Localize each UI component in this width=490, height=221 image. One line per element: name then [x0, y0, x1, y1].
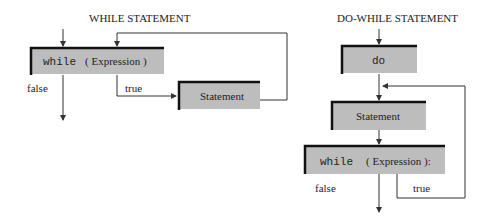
while-expression: ( Expression ) [85, 55, 147, 68]
while-keyword: while [43, 56, 76, 68]
do-box: do [342, 46, 417, 74]
while-statement-box: Statement [179, 82, 260, 110]
while-condition-box: while ( Expression ) [31, 48, 164, 75]
flowchart-canvas: WHILE STATEMENT while ( Expression ) fal… [0, 0, 490, 221]
false-label: false [27, 82, 48, 94]
while-title: WHILE STATEMENT [89, 12, 191, 24]
do-while-keyword: while [320, 156, 353, 168]
do-false-label: false [315, 182, 336, 194]
do-while-expression: ( Expression ): [366, 155, 431, 168]
while-statement-label: Statement [200, 90, 244, 102]
do-while-diagram: DO-WHILE STATEMENT do Statement while ( … [305, 12, 465, 212]
do-keyword: do [372, 55, 385, 67]
do-while-title: DO-WHILE STATEMENT [337, 12, 458, 24]
do-statement-box: Statement [332, 102, 426, 130]
true-label: true [125, 82, 142, 94]
do-statement-label: Statement [356, 110, 400, 122]
while-diagram: WHILE STATEMENT while ( Expression ) fal… [27, 12, 287, 120]
do-while-condition-box: while ( Expression ): [305, 146, 445, 174]
do-true-label: true [413, 182, 430, 194]
